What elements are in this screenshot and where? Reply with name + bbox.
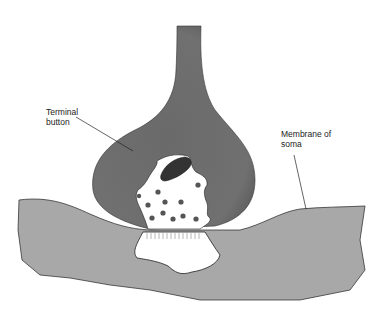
label-line: button (46, 117, 78, 127)
synapse-diagram (0, 0, 384, 314)
label-line: soma (281, 139, 331, 149)
membrane-of-soma-label: Membrane of soma (281, 129, 331, 149)
terminal-button-leader (76, 117, 133, 151)
label-line: Terminal (46, 107, 78, 117)
membrane-leader (294, 155, 306, 209)
label-line: Membrane of (281, 129, 331, 139)
terminal-button-label: Terminal button (46, 107, 78, 127)
